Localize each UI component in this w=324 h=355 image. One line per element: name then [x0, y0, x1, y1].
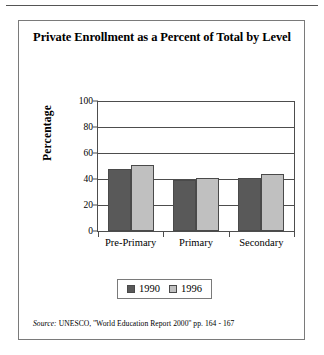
chart-legend: 19901996	[117, 279, 212, 299]
x-tick-mark	[229, 231, 230, 237]
legend-item-1996: 1996	[169, 283, 202, 294]
legend-label: 1990	[139, 283, 160, 294]
x-tick-mark	[294, 231, 295, 237]
y-tick-label: 60	[84, 148, 94, 158]
legend-swatch-icon	[127, 285, 135, 293]
x-tick-mark	[98, 231, 99, 237]
category-label: Pre-Primary	[105, 237, 156, 248]
legend-label: 1996	[181, 283, 202, 294]
y-tick-label: 40	[84, 174, 94, 184]
legend-item-1990: 1990	[127, 283, 160, 294]
bar-1990-pre-primary	[108, 169, 131, 231]
bar-1990-primary	[173, 180, 196, 231]
bar-1990-secondary	[238, 178, 261, 231]
bar-group	[108, 101, 154, 231]
plot-container: Percentage 020406080100 Pre-PrimaryPrima…	[19, 79, 306, 259]
bar-group	[238, 101, 284, 231]
chart-figure: Private Enrollment as a Percent of Total…	[0, 0, 324, 355]
y-tick-label: 20	[84, 200, 94, 210]
bars-layer	[98, 101, 294, 231]
bar-group	[173, 101, 219, 231]
chart-title: Private Enrollment as a Percent of Total…	[33, 29, 291, 45]
plot-area: 020406080100 Pre-PrimaryPrimarySecondary	[97, 101, 295, 232]
page-top-rule	[6, 5, 318, 6]
bar-1996-primary	[196, 178, 219, 231]
y-tick-label: 0	[88, 226, 93, 236]
category-label: Secondary	[239, 237, 283, 248]
source-text: UNESCO, ''World Education Report 2000'' …	[59, 319, 235, 328]
bar-1996-secondary	[261, 174, 284, 231]
bar-1996-pre-primary	[131, 165, 154, 231]
figure-border-box: Private Enrollment as a Percent of Total…	[18, 20, 305, 340]
legend-swatch-icon	[169, 285, 177, 293]
y-tick-label: 100	[79, 96, 93, 106]
y-tick-label: 80	[84, 122, 94, 132]
source-note: Source: UNESCO, ''World Education Report…	[33, 319, 291, 328]
y-axis-title: Percentage	[41, 83, 53, 183]
source-keyword: Source:	[33, 319, 57, 328]
category-label: Primary	[179, 237, 213, 248]
x-tick-mark	[163, 231, 164, 237]
